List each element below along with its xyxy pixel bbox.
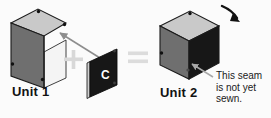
unit1-corner-dot-left xyxy=(11,62,14,65)
assembly-diagram-figure: Unit 1 C Unit 2 This seam is not yet sew… xyxy=(0,0,271,118)
unit1-corner-dot-bottom xyxy=(41,78,44,81)
seam-note-line-1: This seam xyxy=(216,70,271,82)
unit2-corner-dot-left xyxy=(160,51,163,54)
unit2-corner-dot-bottom xyxy=(186,68,189,71)
unit2-corner-dot-top xyxy=(188,12,191,15)
panel-c-corner-dot-bottom xyxy=(113,82,116,85)
unit2-label: Unit 2 xyxy=(160,85,197,100)
seam-note-line-3: sewn. xyxy=(216,93,271,105)
unit2-shape xyxy=(160,11,219,79)
unit1-corner-dot-right xyxy=(63,23,66,26)
seam-note: This seam is not yet sewn. xyxy=(216,70,271,105)
panel-c-label: C xyxy=(101,68,110,82)
unit1-label: Unit 1 xyxy=(12,84,49,99)
rotation-arrow-icon xyxy=(222,6,240,22)
unit1-shape xyxy=(11,9,66,88)
panel-c-corner-dot-top xyxy=(113,50,116,53)
unit1-inner-face xyxy=(44,40,66,88)
equals-operator-icon xyxy=(128,52,148,64)
plus-operator-icon xyxy=(64,50,83,69)
unit1-corner-dot-top xyxy=(37,10,40,13)
seam-note-line-2: is not yet xyxy=(216,82,271,94)
